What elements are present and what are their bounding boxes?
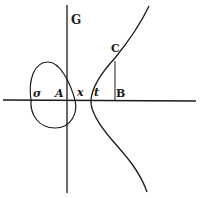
geometric-figure (0, 0, 201, 198)
horizontal-axis (3, 100, 196, 101)
label-x: x (77, 87, 84, 98)
label-g: G (71, 14, 81, 26)
label-c: C (111, 43, 120, 54)
label-sigma: σ (33, 88, 41, 99)
label-b: B (116, 88, 125, 99)
label-t: t (94, 87, 99, 98)
label-a: A (55, 88, 64, 99)
